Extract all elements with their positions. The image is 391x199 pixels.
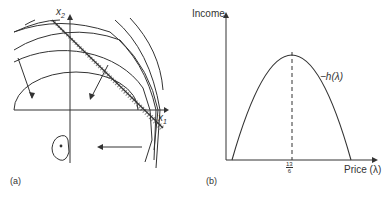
optimum-point xyxy=(60,145,63,148)
optimum-contour xyxy=(52,136,69,161)
x1-axis-label: x1 xyxy=(158,112,167,125)
arrowhead-icon xyxy=(89,93,95,100)
x1-label-sub: 1 xyxy=(163,118,167,125)
gradient-arrow-mid xyxy=(91,65,108,98)
gradient-arrow-left xyxy=(18,58,32,98)
arrowhead-icon xyxy=(97,144,103,150)
peak-tick-numerator: 13 xyxy=(286,161,293,168)
x2-arrow-icon xyxy=(67,14,73,20)
x2-label-sub: 2 xyxy=(61,12,65,19)
income-axis-label: Income xyxy=(192,8,225,19)
contour-arc-2 xyxy=(14,51,152,162)
panel-b-label: (b) xyxy=(206,176,217,186)
contour-arc-3 xyxy=(14,32,158,150)
arrowhead-icon xyxy=(29,92,35,99)
panel-a xyxy=(14,14,169,168)
figure-canvas xyxy=(0,0,391,199)
contour-arc-5 xyxy=(14,24,156,161)
panel-b xyxy=(223,12,378,163)
x2-axis-label: x2 xyxy=(56,6,65,19)
contour-arc-1 xyxy=(14,72,138,110)
price-arrow-icon xyxy=(372,157,378,163)
panel-a-label: (a) xyxy=(10,176,21,186)
price-axis-label: Price (λ) xyxy=(344,164,381,175)
curve-label: −h(λ) xyxy=(320,71,343,82)
peak-tick-denominator: 6 xyxy=(286,168,293,174)
peak-tick-label: 13 6 xyxy=(286,161,293,174)
